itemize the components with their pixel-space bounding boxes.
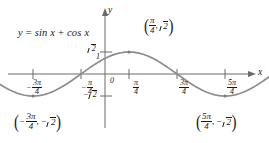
equation-cos: cos [67, 27, 82, 38]
point-label-trough-left: (−3π4, −2) [14, 112, 61, 132]
x-tick-neg-pi-4: −π4 [81, 79, 93, 97]
paren-open: ( [144, 18, 149, 33]
fraction: 3π4 [26, 112, 37, 132]
paren-close: ) [232, 114, 237, 129]
point-label-peak: (π4, 2) [144, 16, 173, 36]
paren-open: ( [196, 114, 201, 129]
equation-x1: x [50, 27, 55, 38]
fraction: 5π4 [227, 79, 237, 97]
x-axis-label: x [258, 68, 262, 78]
sqrt-symbol-icon: 2 [160, 21, 169, 31]
trig-graph-figure: y = sin x + cos x y x 0 2 1 −2 −3π4 −π4 … [0, 0, 269, 143]
x-tick-3pi-4-den: 4 [179, 88, 189, 96]
fraction: 3π4 [32, 79, 42, 97]
y-tick-one: 1 [96, 53, 100, 61]
comma: , [156, 20, 158, 30]
paren-close: ) [168, 18, 173, 33]
comma: , [37, 116, 39, 126]
point-trough-left-x-sign: − [19, 117, 26, 126]
equation-x2: x [84, 27, 89, 38]
origin-label: 0 [110, 77, 114, 85]
x-tick-neg-3pi-4-den: 4 [32, 88, 42, 96]
x-axis [8, 71, 256, 77]
fraction: π4 [87, 79, 93, 97]
fraction: 3π4 [179, 79, 189, 97]
paren-close: ) [56, 114, 61, 129]
equation-sin: sin [35, 27, 48, 38]
sqrt-symbol-icon: 2 [223, 117, 232, 127]
equation-plus: + [58, 27, 64, 38]
x-tick-pi-4: π4 [133, 79, 139, 97]
y-axis-label: y [108, 6, 112, 16]
point-label-trough-right: (5π4, −2) [196, 112, 237, 132]
equation-label: y = sin x + cos x [18, 28, 89, 39]
point-trough-left-x-den: 4 [26, 122, 37, 131]
point-trough-right-x-den: 4 [201, 122, 212, 131]
x-tick-5pi-4-den: 4 [227, 88, 237, 96]
x-tick-neg-pi-4-den: 4 [87, 88, 93, 96]
paren-open: ( [14, 114, 19, 129]
x-tick-pi-4-den: 4 [133, 88, 139, 96]
x-tick-neg-3pi-4: −3π4 [26, 79, 42, 97]
comma: , [212, 116, 214, 126]
y-axis [102, 8, 108, 128]
point-marker [127, 50, 130, 53]
equation-equals: = [26, 27, 32, 38]
fraction: π4 [133, 79, 139, 97]
x-tick-3pi-4: 3π4 [179, 79, 189, 97]
sqrt-symbol-icon: 2 [47, 117, 56, 127]
fraction: 5π4 [201, 112, 212, 132]
x-tick-5pi-4: 5π4 [227, 79, 237, 97]
equation-y: y [18, 27, 23, 38]
